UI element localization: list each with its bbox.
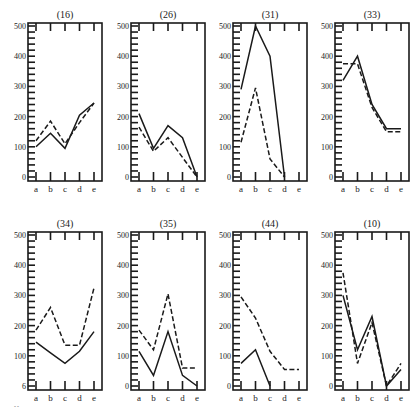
y-tick-label: 100 <box>219 352 231 361</box>
y-tick-label: 300 <box>321 291 333 300</box>
series-solid-line <box>343 56 401 129</box>
chart-panel: (16)0100200300400500abcde <box>14 9 102 194</box>
x-tick-label: a <box>34 393 38 403</box>
panel-title: (35) <box>160 218 177 230</box>
panel-frame <box>28 23 102 181</box>
panel-frame <box>131 23 205 181</box>
x-tick-label: b <box>48 393 53 403</box>
x-tick-label: c <box>166 184 170 194</box>
y-tick-label: 500 <box>117 231 129 240</box>
y-tick-label: 200 <box>219 113 231 122</box>
series-solid-line <box>241 26 285 177</box>
y-tick-label: 0 <box>227 382 231 391</box>
x-tick-label: e <box>92 393 96 403</box>
panel-frame <box>233 232 307 390</box>
y-tick-label: 0 <box>125 382 129 391</box>
y-tick-label: 300 <box>14 82 26 91</box>
x-tick-label: a <box>341 393 345 403</box>
panel-title: (44) <box>262 218 279 230</box>
series-solid-line <box>241 350 270 386</box>
x-tick-label: a <box>137 393 141 403</box>
panel-frame <box>28 232 102 390</box>
y-tick-label: 200 <box>321 113 333 122</box>
x-tick-label: d <box>282 184 287 194</box>
x-tick-label: a <box>34 184 38 194</box>
y-tick-label: 400 <box>14 261 26 270</box>
series-dashed-line <box>343 64 401 132</box>
y-tick-label: 500 <box>14 231 26 240</box>
y-tick-label: 100 <box>117 352 129 361</box>
chart-panel: (26)0100200300400500abcde <box>117 9 205 194</box>
y-tick-label: 400 <box>117 261 129 270</box>
chart-panel: (44)0100200300400500abcde <box>219 218 307 403</box>
y-tick-label: 200 <box>14 322 26 331</box>
chart-panel: (34)6100200300400500abcde <box>14 218 102 403</box>
y-tick-label: 400 <box>219 52 231 61</box>
series-dashed-line <box>241 297 299 370</box>
series-dashed-line <box>343 273 401 386</box>
x-tick-label: b <box>151 184 156 194</box>
series-dashed-line <box>241 88 285 177</box>
y-tick-label: 0 <box>227 173 231 182</box>
x-tick-label: e <box>195 393 199 403</box>
y-tick-label: 300 <box>219 291 231 300</box>
x-tick-label: b <box>253 393 258 403</box>
y-tick-label: 200 <box>14 113 26 122</box>
x-tick-label: d <box>180 393 185 403</box>
x-tick-label: e <box>297 393 301 403</box>
x-tick-label: d <box>384 393 389 403</box>
x-tick-label: d <box>180 184 185 194</box>
y-tick-label: 500 <box>219 22 231 31</box>
x-tick-label: b <box>253 184 258 194</box>
y-tick-label: 0 <box>329 382 333 391</box>
y-tick-label: 300 <box>14 291 26 300</box>
panel-frame <box>131 232 205 390</box>
panel-title: (26) <box>160 9 177 21</box>
x-tick-label: a <box>341 184 345 194</box>
x-tick-label: d <box>77 393 82 403</box>
x-tick-label: b <box>355 393 360 403</box>
y-tick-label: 100 <box>219 143 231 152</box>
series-solid-line <box>36 332 94 364</box>
panel-frame <box>335 232 409 390</box>
chart-panel: (33)0100200300400500abcde <box>321 9 409 194</box>
corner-mark: ‑‑ <box>14 402 20 409</box>
x-tick-label: c <box>63 393 67 403</box>
x-tick-label: b <box>151 393 156 403</box>
y-tick-label: 500 <box>219 231 231 240</box>
y-tick-label: 100 <box>321 352 333 361</box>
y-tick-label: 500 <box>14 22 26 31</box>
x-tick-label: d <box>77 184 82 194</box>
y-tick-label: 100 <box>321 143 333 152</box>
y-tick-label: 0 <box>22 173 26 182</box>
y-tick-label: 300 <box>117 82 129 91</box>
x-tick-label: d <box>282 393 287 403</box>
x-tick-label: a <box>239 393 243 403</box>
chart-panel: (31)0100200300400500abcde <box>219 9 307 194</box>
x-tick-label: e <box>195 184 199 194</box>
y-tick-label: 200 <box>321 322 333 331</box>
x-tick-label: c <box>166 393 170 403</box>
y-tick-label: 400 <box>321 52 333 61</box>
y-tick-label: 500 <box>321 22 333 31</box>
y-tick-label: 500 <box>117 22 129 31</box>
y-tick-label: 300 <box>117 291 129 300</box>
y-tick-label: 200 <box>219 322 231 331</box>
y-tick-label: 500 <box>321 231 333 240</box>
y-tick-label: 100 <box>14 143 26 152</box>
y-tick-label: 400 <box>14 52 26 61</box>
x-tick-label: b <box>355 184 360 194</box>
y-tick-label: 300 <box>321 82 333 91</box>
y-tick-label: 0 <box>125 173 129 182</box>
series-solid-line <box>36 103 94 148</box>
panel-title: (33) <box>364 9 381 21</box>
x-tick-label: e <box>297 184 301 194</box>
y-tick-label: 400 <box>219 261 231 270</box>
series-solid-line <box>343 295 401 386</box>
panel-title: (34) <box>57 218 74 230</box>
x-tick-label: c <box>268 393 272 403</box>
x-tick-label: c <box>63 184 67 194</box>
x-tick-label: c <box>370 184 374 194</box>
y-tick-label: 400 <box>321 261 333 270</box>
series-solid-line <box>139 114 197 177</box>
